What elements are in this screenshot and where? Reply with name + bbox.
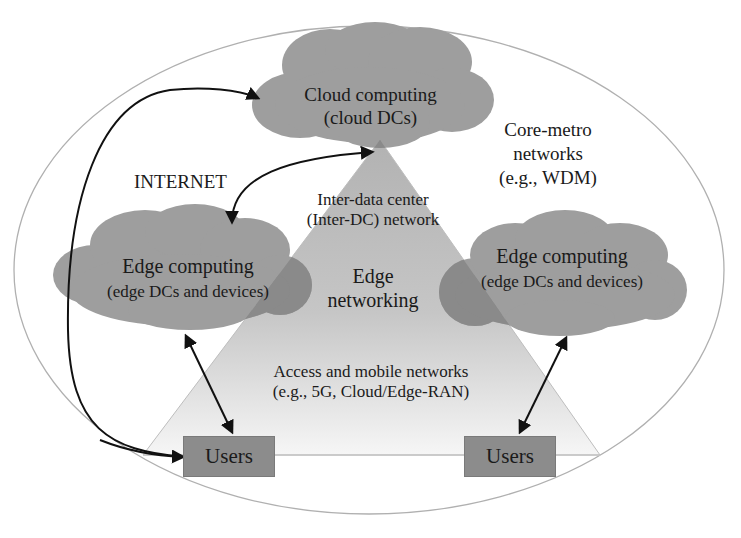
access-line2: (e.g., 5G, Cloud/Edge-RAN) xyxy=(256,382,486,402)
edge-cloud-network-diagram: Cloud computing (cloud DCs) Core-metro n… xyxy=(0,0,741,538)
core-metro-line3: (e.g., WDM) xyxy=(478,166,618,190)
inter-dc-line1: Inter-data center xyxy=(298,190,448,210)
edge-left-title: Edge computing xyxy=(88,254,288,278)
core-metro-line1: Core-metro xyxy=(478,118,618,142)
internet-label: INTERNET xyxy=(134,171,244,194)
edge-left-subtitle: (edge DCs and devices) xyxy=(88,282,288,302)
users-box-left: Users xyxy=(183,436,275,477)
cloud-computing-subtitle: (cloud DCs) xyxy=(283,107,458,130)
edge-computing-left-label: Edge computing (edge DCs and devices) xyxy=(88,254,288,302)
inter-dc-line2: (Inter-DC) network xyxy=(298,210,448,230)
access-mobile-label: Access and mobile networks (e.g., 5G, Cl… xyxy=(256,362,486,403)
core-metro-line2: networks xyxy=(478,142,618,166)
cloud-computing-label: Cloud computing (cloud DCs) xyxy=(283,84,458,130)
edge-right-title: Edge computing xyxy=(462,244,662,268)
edge-computing-right-label: Edge computing (edge DCs and devices) xyxy=(462,244,662,292)
edge-right-subtitle: (edge DCs and devices) xyxy=(462,272,662,292)
access-line1: Access and mobile networks xyxy=(256,362,486,382)
edge-networking-line1: Edge xyxy=(318,264,428,288)
core-metro-label: Core-metro networks (e.g., WDM) xyxy=(478,118,618,189)
edge-networking-line2: networking xyxy=(318,288,428,312)
edge-networking-label: Edge networking xyxy=(318,264,428,312)
users-box-right: Users xyxy=(464,436,556,477)
cloud-computing-title: Cloud computing xyxy=(283,84,458,107)
inter-dc-label: Inter-data center (Inter-DC) network xyxy=(298,190,448,231)
